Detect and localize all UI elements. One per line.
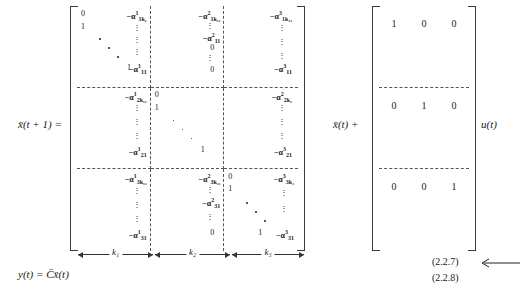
identity-entry: 0 [409,181,439,192]
entry-zero: 0 [210,44,214,52]
vertical-dots: ⋮ [133,132,141,140]
identity-entry: 1 [439,181,469,192]
vertical-dots: ⋮ [133,215,141,223]
entry-one: 1 [228,185,232,193]
vertical-dots: ⋮ [206,54,214,62]
entry-alpha-1-3k13: −α13k₁₃ [125,173,147,185]
identity-entry: 0 [439,100,469,111]
identity-entry: 0 [379,100,409,111]
entry-alpha-2-2k2: −α22k₂ [272,91,292,103]
entry-zero: 0 [155,91,159,99]
dimension-label: k₁ [109,247,122,257]
vertical-dots: ⋮ [278,104,286,112]
entry-alpha-3-11: −α311 [274,63,292,75]
vertical-dots: ⋮ [133,118,141,126]
output-equation: y(t) = C̄x̄(t) [18,268,69,280]
identity-entry: 1 [379,18,409,29]
vertical-dots: ⋮ [280,205,288,213]
pointer-arrow-icon [479,258,521,268]
block-r3c2: −α23k₂₃ ⋮ −α231 ⋮ 0 [151,169,225,251]
input-matrix-B: 1 0 0 0 1 0 0 0 1 [372,6,476,251]
entry-alpha-2-21: −α321 [274,146,292,158]
vertical-dots: ⋮ [133,24,141,32]
identity-block-row-1: 1 0 0 [379,6,469,88]
vertical-dots: ⋮ [278,24,286,32]
block-r1c2: −α21k₁₂ ⋮ −α211 0 ⋮ 0 [151,6,225,88]
input-vector-label: u(t) [481,118,497,130]
entry-alpha-1-11: −α111 [129,63,147,75]
vertical-dots: ⋮ [133,104,141,112]
matrix-bracket-right [297,6,305,251]
entry-zero: 0 [210,229,214,237]
entry-alpha-2-3k23: −α23k₂₃ [198,173,220,185]
dimension-brace-k2: k₂ [155,248,230,260]
entry-one: 1 [155,104,159,112]
entry-alpha-1-1k1: −α11k₁ [126,10,146,22]
entry-zero: 0 [228,173,232,181]
vertical-dots: ⋮ [133,36,141,44]
entry-one-bottom: 1 [258,229,262,237]
entry-zero: 0 [81,10,85,18]
identity-entry: 0 [379,181,409,192]
vertical-dots: ⋮ [206,213,214,221]
vertical-dots: ⋮ [133,187,141,195]
matrix-block-grid: 0 1 1 −α11k₁ ⋮ ⋮ ⋮ −α111 −α21k₁₂ ⋮ −α211… [77,6,298,251]
entry-zero: 0 [210,66,214,74]
identity-block-row-2: 0 1 0 [379,88,469,170]
identity-grid: 1 0 0 0 1 0 0 0 1 [379,6,469,251]
identity-entry: 0 [409,18,439,29]
block-r2c2: 0 1 1 [151,88,225,170]
equation-figure: x̄(t + 1) = 0 1 1 −α11k₁ ⋮ ⋮ ⋮ −α111 −α2… [0,0,524,294]
dimension-brace-k3: k₃ [232,248,304,260]
vertical-dots: ⋮ [133,201,141,209]
vertical-dots: ⋮ [278,132,286,140]
vertical-dots: ⋮ [206,22,214,30]
block-r3c1: −α13k₁₃ ⋮ ⋮ ⋮ −α131 [77,169,151,251]
dimension-brace-k1: k₁ [78,248,153,260]
block-r2c1: −α12k₁₂ ⋮ ⋮ ⋮ −α121 [77,88,151,170]
entry-alpha-2-31: −α231 [202,197,220,209]
vertical-dots: ⋮ [278,38,286,46]
equation-number-227: (2.2.7) [432,256,459,267]
identity-entry: 0 [439,18,469,29]
matrix-bracket-right [468,6,476,251]
vertical-dots: ⋮ [278,118,286,126]
entry-alpha-3-3k3: −α33k₃ [274,173,294,185]
vertical-dots: ⋮ [280,189,288,197]
block-r3c3: 0 1 1 −α33k₃ ⋮ ⋮ −α331 [224,169,298,251]
vertical-dots: ⋮ [278,52,286,60]
state-matrix-A: 0 1 1 −α11k₁ ⋮ ⋮ ⋮ −α111 −α21k₁₂ ⋮ −α211… [70,6,305,251]
vertical-dots: ⋮ [133,48,141,56]
identity-entry: 1 [409,100,439,111]
entry-one: 1 [81,23,85,31]
dimension-label: k₃ [261,247,274,257]
vertical-dots: ⋮ [206,186,214,194]
entry-alpha-1-2k12: −α12k₁₂ [125,91,147,103]
block-r1c3: −α31k₁₃ ⋮ ⋮ ⋮ −α311 [224,6,298,88]
block-r2c3: −α22k₂ ⋮ ⋮ ⋮ −α321 [224,88,298,170]
identity-block-row-3: 0 0 1 [379,169,469,251]
state-vector-plus: x̄(t) + [333,118,358,130]
dimension-label: k₂ [186,247,199,257]
entry-alpha-3-1k13: −α31k₁₃ [270,10,292,22]
entry-one-bottom: 1 [201,146,205,154]
block-r1c1: 0 1 1 −α11k₁ ⋮ ⋮ ⋮ −α111 [77,6,151,88]
entry-alpha-3-31: −α331 [276,229,294,241]
state-equation-lhs: x̄(t + 1) = [18,118,62,130]
equation-number-228: (2.2.8) [432,272,459,283]
entry-alpha-1-31: −α131 [129,229,147,241]
entry-alpha-1-21: −α121 [129,146,147,158]
